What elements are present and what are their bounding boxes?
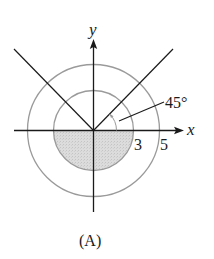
figure-caption: (A) bbox=[79, 232, 101, 250]
polar-region-diagram: y x 45° 3 5 (A) bbox=[0, 0, 214, 259]
x-axis-label: x bbox=[186, 120, 195, 139]
inner-radius-label: 3 bbox=[134, 136, 142, 153]
outer-radius-label: 5 bbox=[160, 136, 168, 153]
angle-label: 45° bbox=[165, 94, 187, 111]
ray-45 bbox=[94, 49, 174, 131]
ray-135 bbox=[14, 49, 94, 131]
y-axis-label: y bbox=[87, 20, 97, 39]
